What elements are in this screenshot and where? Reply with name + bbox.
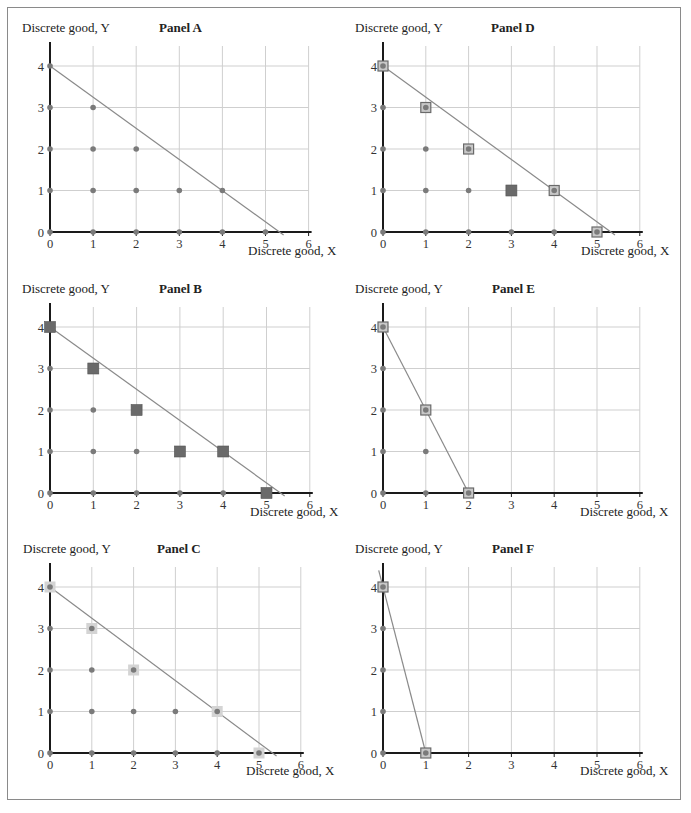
plot-area: 012345601234 [345,261,680,519]
plot-area: 012345601234 [0,261,335,519]
feasible-point-dot [177,188,183,194]
panel-b: Discrete good, Y Panel B Discrete good, … [0,261,335,519]
filled-square-marker [218,446,229,457]
feasible-point-dot [380,366,386,372]
x-tick-label: 5 [262,237,268,251]
y-tick-label: 1 [371,705,377,719]
feasible-point-dot [380,407,386,413]
feasible-point-dot [214,750,220,756]
y-tick-label: 2 [371,143,377,157]
budget-line [383,66,615,235]
feasible-point-dot [594,229,600,235]
feasible-point-dot [91,490,97,496]
feasible-point-dot [380,229,386,235]
filled-square-marker [261,488,272,499]
feasible-point-dot [380,667,386,673]
budget-line [379,570,426,753]
y-tick-label: 2 [371,404,377,418]
feasible-point-dot [47,188,53,194]
budget-line [50,327,285,496]
x-tick-label: 2 [133,498,139,512]
feasible-point-dot [380,324,386,330]
x-tick-label: 3 [172,758,178,772]
feasible-point-dot [47,229,53,235]
feasible-point-dot [47,750,53,756]
y-tick-label: 0 [38,747,44,761]
y-tick-label: 2 [38,664,44,678]
x-tick-label: 6 [637,758,643,772]
x-tick-label: 0 [47,498,53,512]
x-tick-label: 3 [177,498,183,512]
x-tick-label: 1 [423,758,429,772]
feasible-point-dot [380,709,386,715]
x-tick-label: 5 [594,237,600,251]
x-tick-label: 6 [637,237,643,251]
y-tick-label: 3 [38,362,44,376]
feasible-point-dot [89,667,95,673]
feasible-point-dot [214,709,220,715]
x-tick-label: 2 [130,758,136,772]
panel-e: Discrete good, Y Panel E Discrete good, … [345,261,680,519]
y-tick-label: 0 [38,487,44,501]
x-tick-label: 4 [220,498,227,512]
panel-c: Discrete good, Y Panel C Discrete good, … [0,521,335,779]
y-tick-label: 0 [38,226,44,240]
feasible-point-dot [466,229,472,235]
feasible-point-dot [551,188,557,194]
x-tick-label: 3 [508,758,514,772]
budget-line [50,66,284,235]
feasible-point-dot [423,188,429,194]
x-tick-label: 6 [637,498,643,512]
x-tick-label: 1 [90,237,96,251]
feasible-point-dot [47,407,53,413]
feasible-point-dot [177,490,183,496]
feasible-point-dot [133,146,139,152]
feasible-point-dot [173,750,179,756]
y-tick-label: 1 [371,184,377,198]
feasible-point-dot [423,490,429,496]
plot-area: 012345601234 [0,521,335,779]
feasible-point-dot [380,750,386,756]
y-tick-label: 3 [371,101,377,115]
feasible-point-dot [91,449,97,455]
feasible-point-dot [90,188,96,194]
feasible-point-dot [89,709,95,715]
feasible-point-dot [47,584,53,590]
feasible-point-dot [47,626,53,632]
x-tick-label: 3 [508,498,514,512]
x-tick-label: 0 [47,758,53,772]
x-tick-label: 4 [219,237,226,251]
y-tick-label: 3 [38,622,44,636]
x-tick-label: 3 [508,237,514,251]
feasible-point-dot [423,146,429,152]
filled-square-marker [131,405,142,416]
y-tick-label: 2 [38,143,44,157]
feasible-point-dot [131,709,137,715]
y-tick-label: 1 [38,445,44,459]
feasible-point-dot [423,750,429,756]
feasible-point-dot [47,709,53,715]
filled-square-marker [174,446,185,457]
x-tick-label: 1 [90,498,96,512]
y-tick-label: 2 [371,664,377,678]
plot-area: 012345601234 [345,521,680,779]
feasible-point-dot [177,229,183,235]
x-tick-label: 6 [307,498,313,512]
y-tick-label: 0 [371,226,377,240]
feasible-point-dot [90,229,96,235]
feasible-point-dot [263,229,269,235]
y-tick-label: 3 [371,622,377,636]
x-tick-label: 5 [263,498,269,512]
feasible-point-dot [173,709,179,715]
x-tick-label: 3 [176,237,182,251]
y-tick-label: 4 [38,581,45,595]
feasible-point-dot [47,490,53,496]
panel-f: Discrete good, Y Panel F Discrete good, … [345,521,680,779]
x-tick-label: 1 [423,237,429,251]
feasible-point-dot [89,750,95,756]
feasible-point-dot [423,105,429,111]
feasible-point-dot [380,63,386,69]
x-tick-label: 4 [214,758,221,772]
x-tick-label: 2 [465,498,471,512]
feasible-point-dot [380,105,386,111]
